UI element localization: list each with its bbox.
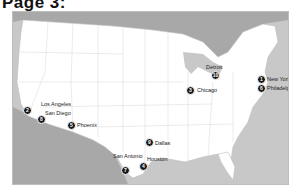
city-label: San Antonio [113, 153, 143, 159]
city-marker[interactable]: 1 [257, 75, 266, 84]
city-label: Los Angeles [41, 101, 71, 107]
city-marker[interactable]: 4 [139, 162, 148, 171]
city-marker[interactable]: 10 [211, 71, 220, 80]
us-map: 1 New York 2 Los Angeles 3 Chicago 4 Hou… [12, 11, 289, 185]
city-label: Philadelphia [267, 85, 289, 91]
city-label: San Diego [45, 110, 71, 116]
city-marker[interactable]: 9 [145, 138, 154, 147]
city-label: Phoenix [77, 122, 97, 128]
city-label: Chicago [197, 87, 217, 93]
city-label: Houston [147, 156, 168, 162]
city-label: New York [267, 76, 289, 82]
city-marker[interactable]: 8 [37, 115, 46, 124]
city-marker[interactable]: 2 [23, 106, 32, 115]
city-marker[interactable]: 7 [121, 166, 130, 175]
city-label: Detroit [206, 64, 222, 70]
city-label: Dallas [155, 140, 170, 146]
city-marker[interactable]: 3 [186, 86, 195, 95]
city-marker[interactable]: 6 [257, 84, 266, 93]
city-marker[interactable]: 5 [67, 121, 76, 130]
